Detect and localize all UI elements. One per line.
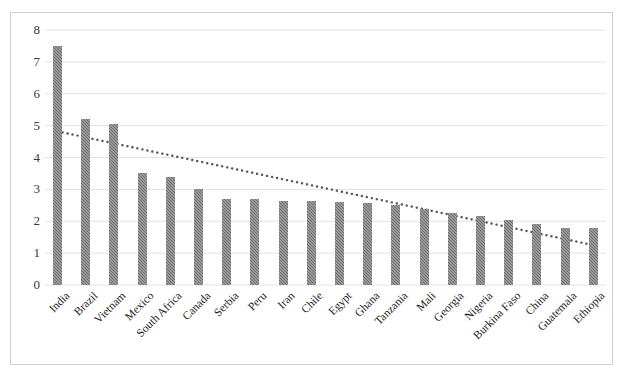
chart-container: 012345678 IndiaBrazilVietnamMexicoSouth … — [0, 0, 631, 386]
x-axis-labels: IndiaBrazilVietnamMexicoSouth AfricaCana… — [0, 0, 631, 386]
